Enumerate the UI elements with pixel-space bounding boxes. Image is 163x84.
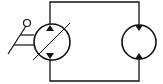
- line-a: [50, 2, 139, 25]
- motor-inlet-triangle-bottom: [135, 53, 143, 59]
- pump-outlet-triangle-bottom: [46, 53, 54, 59]
- diagram-canvas: [0, 0, 163, 84]
- pump-outlet-triangle-top: [46, 25, 54, 31]
- hydraulic-diagram: Hydraulic closed-loop circuit: [0, 0, 163, 84]
- line-b: [50, 59, 139, 81]
- lever-control-icon: [8, 20, 34, 55]
- motor-inlet-triangle-top: [135, 25, 143, 31]
